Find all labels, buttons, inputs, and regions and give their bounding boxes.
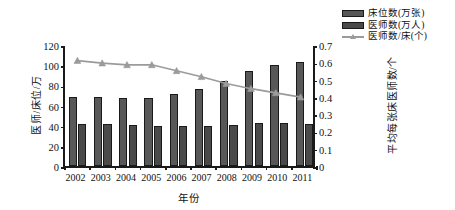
y-tick-right	[313, 150, 317, 152]
y-tick-label-right: 0	[319, 163, 324, 174]
y-axis-right-title: 平均每张床医师数/个	[384, 56, 399, 154]
x-tick	[190, 166, 192, 170]
x-tick-label: 2011	[293, 172, 313, 183]
x-tick-label: 2005	[141, 172, 161, 183]
x-tick-label: 2007	[192, 172, 212, 183]
y-tick-label-right: 0.3	[319, 111, 332, 122]
y-tick-label-right: 0.1	[319, 145, 332, 156]
y-tick-label-left: 0	[54, 163, 59, 174]
y-tick-label-left: 20	[49, 143, 60, 154]
line-marker-swatch-icon	[342, 33, 364, 40]
x-tick	[266, 166, 268, 170]
bar-doctors-swatch-icon	[342, 22, 364, 29]
x-tick-label: 2009	[242, 172, 262, 183]
x-tick	[140, 166, 142, 170]
chart-figure: 医师/床位/万 平均每张床医师数/个 年份 020406080100120 00…	[0, 0, 455, 210]
y-tick-right	[313, 46, 317, 48]
y-tick-label-right: 0.6	[319, 59, 332, 70]
line-series-group	[65, 47, 313, 166]
x-tick-label: 2006	[166, 172, 186, 183]
x-tick-label: 2003	[91, 172, 111, 183]
x-tick	[89, 166, 91, 170]
y-tick-right	[313, 64, 317, 66]
x-tick	[115, 166, 117, 170]
x-tick-label: 2008	[217, 172, 237, 183]
y-tick-label-left: 80	[49, 82, 60, 93]
x-tick-label: 2002	[66, 172, 86, 183]
x-tick	[165, 166, 167, 170]
y-axis-left-title: 医师/床位/万	[28, 75, 43, 134]
x-tick	[316, 166, 318, 170]
y-tick-label-right: 0.4	[319, 94, 332, 105]
x-axis-title: 年份	[63, 190, 315, 205]
y-tick-label-right: 0.5	[319, 76, 332, 87]
legend-item-ratio: 医师数/床(个)	[342, 31, 427, 43]
y-tick-right	[313, 81, 317, 83]
ratio-line-path	[77, 61, 300, 98]
x-tick-label: 2010	[267, 172, 287, 183]
chart-legend: 床位数(万张) 医师数(万人) 医师数/床(个)	[342, 8, 427, 43]
y-tick-right	[313, 115, 317, 117]
y-tick-label-left: 40	[49, 122, 60, 133]
x-tick	[241, 166, 243, 170]
x-tick	[215, 166, 217, 170]
y-tick-label-left: 100	[43, 62, 59, 73]
y-tick-label-left: 60	[49, 102, 60, 113]
legend-label-doctors: 医师数(万人)	[368, 20, 424, 32]
x-tick-label: 2004	[116, 172, 136, 183]
y-tick-right	[313, 98, 317, 100]
legend-label-beds: 床位数(万张)	[368, 8, 424, 20]
legend-label-ratio: 医师数/床(个)	[368, 31, 427, 43]
legend-item-beds: 床位数(万张)	[342, 8, 427, 20]
y-tick-label-right: 0.2	[319, 128, 332, 139]
plot-area: 020406080100120 00.10.20.30.40.50.60.7	[63, 47, 315, 168]
legend-item-doctors: 医师数(万人)	[342, 20, 427, 32]
y-tick-right	[313, 133, 317, 135]
x-tick	[64, 166, 66, 170]
x-tick	[291, 166, 293, 170]
bar-beds-swatch-icon	[342, 10, 364, 17]
y-tick-label-left: 120	[43, 42, 59, 53]
y-tick-label-right: 0.7	[319, 42, 332, 53]
